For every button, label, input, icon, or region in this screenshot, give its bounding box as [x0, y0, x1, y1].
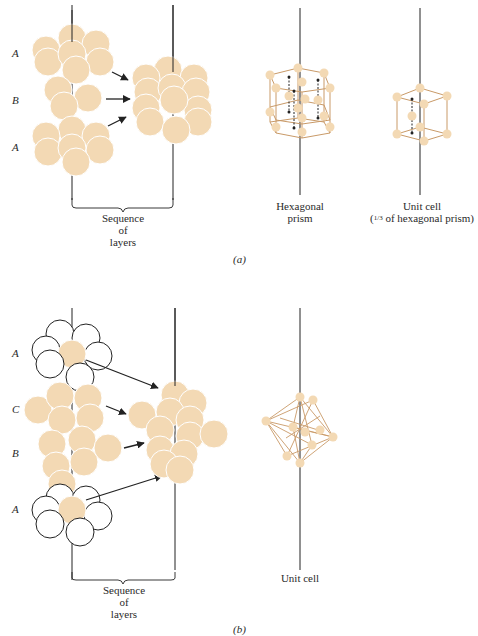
layer-label-a-top-b: A — [12, 347, 19, 359]
panel-b-layers — [24, 308, 122, 580]
figure-canvas — [0, 0, 478, 636]
unit-cell-hcp — [393, 8, 452, 195]
panel-label-a: (a) — [233, 253, 246, 265]
unit-cell-label-a: Unit cell (1/3 of hexagonal prism) — [366, 200, 478, 224]
layer-label-a-top: A — [12, 47, 19, 59]
unit-cell-fraction-note: (1/3 of hexagonal prism) — [366, 212, 478, 224]
panel-label-b: (b) — [233, 623, 246, 635]
layer-label-b-b: B — [12, 447, 19, 459]
sequence-label-a: Sequence of layers — [88, 212, 158, 248]
panel-a-stack — [132, 5, 212, 200]
sequence-label-b: Sequence of layers — [89, 584, 159, 620]
hexagonal-prism-label: Hexagonal prism — [262, 200, 338, 224]
layer-label-c: C — [12, 403, 19, 415]
unit-cell-label-b: Unit cell — [270, 572, 330, 584]
panel-a-arrows — [106, 72, 130, 126]
panel-b-brace — [72, 572, 175, 584]
hexagonal-prism — [266, 8, 335, 195]
unit-cell-ccp — [262, 308, 338, 570]
panel-b-stack — [128, 308, 228, 570]
layer-label-b: B — [12, 94, 19, 106]
layer-label-a-bottom-b: A — [12, 503, 19, 515]
layer-label-a-bottom: A — [12, 141, 19, 153]
panel-a-brace — [72, 198, 173, 212]
panel-a-layers — [32, 5, 114, 200]
